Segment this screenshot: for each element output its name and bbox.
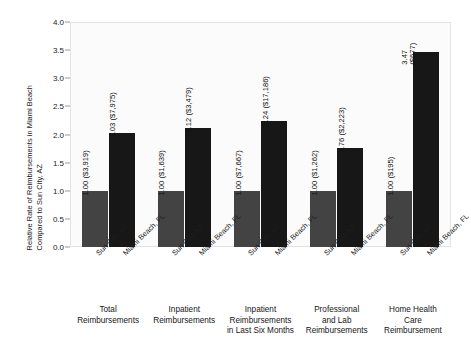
y-axis-tick-label: 2.0: [36, 130, 64, 139]
y-axis-title-line-2: Compared to Sun City, AZ: [36, 163, 43, 250]
bars-layer: 1.00 ($3,919)2.03 ($7,975)1.00 ($1,639)2…: [70, 22, 451, 247]
bar-value-label: 2.03 ($7,975): [109, 92, 118, 137]
group-caption-line: Reimbursements: [146, 316, 222, 327]
y-axis-tick-label: 0.5: [36, 214, 64, 223]
y-axis-tick-label: 1.5: [36, 158, 64, 167]
y-axis-tick-label: 4.0: [36, 18, 64, 27]
group-caption-line: Inpatient: [222, 305, 298, 316]
group-caption-line: Reimbursements: [70, 316, 146, 327]
group-caption-line: Reimbursements: [222, 316, 298, 327]
y-axis-tick-label: 2.5: [36, 102, 64, 111]
group-caption-line: Total: [70, 305, 146, 316]
y-axis-tick-label: 3.5: [36, 46, 64, 55]
bar-value-label: 1.00 ($1,639): [158, 150, 167, 195]
bar-value-label: 1.00 ($7,667): [234, 150, 243, 195]
x-axis-group-captions: TotalReimbursementsInpatientReimbursemen…: [70, 305, 451, 351]
group-caption-line: Care: [375, 316, 451, 327]
group-caption-line: Home Health: [375, 305, 451, 316]
group-caption-3: Professionaland LabReimbursements: [299, 305, 375, 337]
bar-value-label: 2.12 ($3,479): [185, 87, 194, 132]
x-axis-ticks: Sun City, AZMiami Beach, FLSun City, AZM…: [70, 249, 451, 301]
bar-miami-beach-4: [413, 52, 439, 247]
y-axis-tick-label: 1.0: [36, 186, 64, 195]
y-axis-tick-label: 0.0: [36, 243, 64, 252]
bar-value-label: 3.47($677): [401, 31, 418, 65]
group-caption-0: TotalReimbursements: [70, 305, 146, 326]
group-caption-1: InpatientReimbursements: [146, 305, 222, 326]
bar-value-label: 1.76 ($2,223): [337, 107, 346, 152]
bar-value-label: 1.00 ($1,262): [310, 150, 319, 195]
group-caption-line: Reimbursements: [299, 326, 375, 337]
bar-value-label: 1.00 ($195): [386, 156, 395, 195]
bar-sun-city-0: [82, 191, 108, 247]
bar-value-label: 2.24 ($17,186): [261, 76, 270, 125]
group-caption-line: Reimbursement: [375, 326, 451, 337]
group-caption-2: InpatientReimbursementsin Last Six Month…: [222, 305, 298, 337]
bar-value-label: 1.00 ($3,919): [82, 150, 91, 195]
group-caption-line: in Last Six Months: [222, 326, 298, 337]
group-caption-line: Professional: [299, 305, 375, 316]
group-caption-line: Inpatient: [146, 305, 222, 316]
y-axis-title-line-1: Relative Rate of Reimbursements in Miami…: [26, 85, 33, 250]
group-caption-4: Home HealthCareReimbursement: [375, 305, 451, 337]
group-caption-line: and Lab: [299, 316, 375, 327]
y-axis-tick-label: 3.0: [36, 74, 64, 83]
